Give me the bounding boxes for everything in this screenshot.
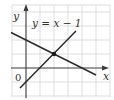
origin-label: 0 [15, 72, 21, 83]
line-equation-label: y = x − 1 [31, 17, 81, 29]
x-axis-label: x [103, 70, 110, 83]
intersection-point [52, 52, 56, 56]
coordinate-graph: y x 0 y = x − 1 [0, 0, 114, 100]
y-axis-label: y [12, 10, 20, 23]
